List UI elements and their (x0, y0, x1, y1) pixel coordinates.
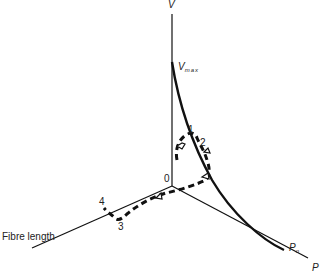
p0-label: Po (289, 243, 300, 254)
fibre-length-label: Fibre length (2, 232, 55, 242)
force-velocity-length-diagram: V Vmax 1 2 0 4 3 Fibre length Po P (0, 0, 322, 275)
vmax-main: V (178, 61, 185, 72)
p0-main: P (289, 242, 296, 253)
vmax-sub: max (185, 67, 199, 73)
origin-label: 0 (164, 174, 170, 184)
point-label-3: 3 (118, 222, 124, 232)
p-axis (172, 186, 308, 258)
p0-sub: o (296, 248, 300, 254)
arrow-head-icon (202, 173, 209, 179)
loop-trajectory (104, 133, 209, 219)
point-label-4: 4 (99, 197, 105, 207)
force-velocity-curve (172, 62, 284, 250)
arrow-head-icon (204, 148, 210, 153)
point-label-1: 1 (188, 125, 194, 135)
point-label-2: 2 (200, 138, 206, 148)
p-axis-label: P (312, 263, 319, 273)
vmax-label: Vmax (178, 62, 199, 73)
v-axis-label: V (168, 0, 175, 10)
